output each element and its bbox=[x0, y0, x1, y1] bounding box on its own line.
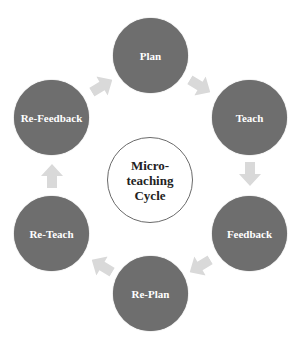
node-label: Plan bbox=[140, 50, 161, 62]
node-label: Re-Plan bbox=[132, 288, 170, 300]
center-line-1: Micro- bbox=[131, 158, 169, 173]
arrow-up-icon bbox=[41, 164, 63, 188]
node-re-plan: Re-Plan bbox=[113, 256, 188, 331]
node-label: Teach bbox=[236, 112, 264, 124]
node-re-teach: Re-Teach bbox=[14, 196, 89, 271]
center-line-2: teaching bbox=[127, 173, 174, 188]
node-re-feedback: Re-Feedback bbox=[14, 80, 89, 155]
node-plan: Plan bbox=[113, 18, 188, 93]
arrow-right-icon bbox=[184, 70, 216, 101]
center-circle: Micro- teaching Cycle bbox=[107, 137, 193, 223]
center-line-3: Cycle bbox=[134, 188, 165, 203]
node-label: Re-Feedback bbox=[21, 112, 83, 124]
node-teach: Teach bbox=[212, 80, 287, 155]
arrow-up-right-icon bbox=[86, 70, 118, 101]
arrow-down-left-icon bbox=[184, 250, 216, 281]
node-label: Re-Teach bbox=[29, 228, 73, 240]
node-label: Feedback bbox=[227, 228, 272, 240]
node-feedback: Feedback bbox=[212, 196, 287, 271]
arrow-up-left-icon bbox=[86, 250, 118, 281]
arrow-down-icon bbox=[239, 162, 261, 186]
